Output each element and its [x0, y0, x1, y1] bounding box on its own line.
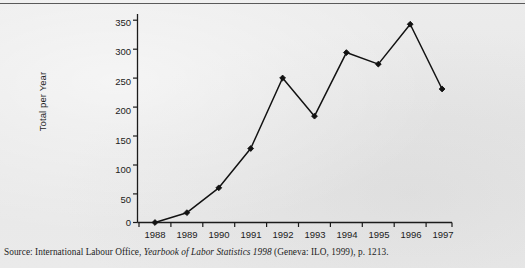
axis-spines: [138, 14, 453, 223]
source-suffix-text: (Geneva: ILO, 1999), p. 1213.: [272, 247, 389, 257]
data-point-markers: [152, 21, 445, 225]
x-axis-ticks: [139, 223, 452, 228]
chart-plot-svg: [0, 4, 525, 236]
source-italic-title: Yearbook of Labor Statistics 1998: [144, 247, 272, 257]
source-citation: Source: International Labour Office, Yea…: [4, 247, 389, 257]
data-point-1997: [439, 86, 445, 92]
data-point-1988: [152, 220, 158, 226]
data-series-line: [155, 24, 442, 222]
source-prefix-text: Source: International Labour Office,: [4, 247, 144, 257]
line-chart-figure: Total per Year 350 300 250 200 150 100 5…: [0, 4, 525, 236]
y-axis-ticks: [133, 20, 138, 222]
data-point-1994: [344, 50, 350, 56]
